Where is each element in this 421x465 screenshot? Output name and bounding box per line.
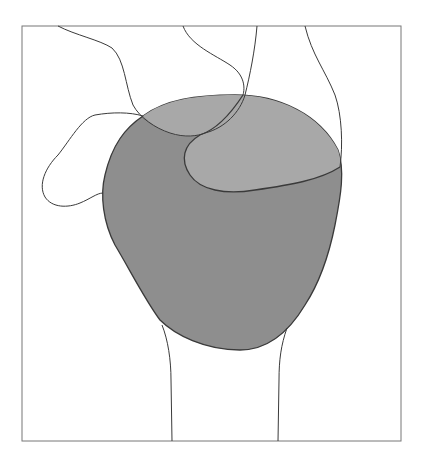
shaft-left-line <box>162 325 172 441</box>
upper-middle-contour <box>183 26 244 95</box>
anatomical-diagram <box>0 0 421 465</box>
diagram-canvas <box>0 0 421 465</box>
shaft-right-line <box>278 328 287 441</box>
